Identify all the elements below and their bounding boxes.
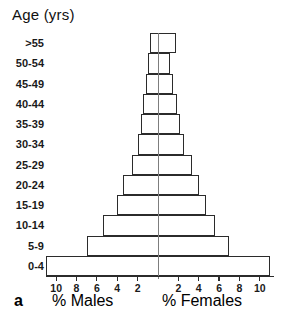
female-bar (158, 114, 180, 134)
age-group-label: 30-34 (16, 134, 44, 154)
bar-row (46, 215, 274, 235)
males-axis-caption: % Males (52, 292, 113, 310)
male-bar (146, 74, 158, 94)
age-group-label: >55 (25, 33, 44, 53)
y-axis-title: Age (yrs) (12, 6, 75, 23)
center-axis-line (158, 33, 159, 279)
male-bar (143, 94, 158, 114)
female-bar (158, 175, 199, 195)
panel-letter: a (14, 292, 23, 310)
bar-row (46, 134, 274, 154)
age-group-label-column: >5550-5445-4940-4435-3930-3425-2920-2415… (0, 33, 46, 276)
bar-row (46, 236, 274, 256)
bar-row (46, 155, 274, 175)
x-axis-tick (117, 276, 118, 281)
age-group-label: 5-9 (28, 236, 44, 256)
age-group-label: 0-4 (28, 256, 44, 276)
age-group-label: 40-44 (16, 94, 44, 114)
male-bar (138, 134, 158, 154)
x-axis-tick (137, 276, 138, 281)
male-bar (132, 155, 158, 175)
female-bar (158, 53, 170, 73)
bar-row (46, 94, 274, 114)
bar-row (46, 195, 274, 215)
male-bar (46, 256, 158, 276)
age-group-label: 50-54 (16, 53, 44, 73)
male-bar (150, 33, 158, 53)
male-bar (141, 114, 158, 134)
female-bar (158, 74, 173, 94)
axis-cap-right (269, 271, 270, 277)
male-bar (148, 53, 158, 73)
age-group-label: 20-24 (16, 175, 44, 195)
x-axis-tick (259, 276, 260, 281)
age-group-label: 25-29 (16, 155, 44, 175)
figure-footer: a % Males % Females (0, 292, 288, 318)
x-axis-tick (76, 276, 77, 281)
bar-row (46, 114, 274, 134)
age-group-label: 45-49 (16, 74, 44, 94)
bar-row (46, 175, 274, 195)
female-bar (158, 94, 177, 114)
x-axis-tick (56, 276, 57, 281)
females-axis-caption: % Females (162, 292, 242, 310)
age-group-label: 15-19 (16, 195, 44, 215)
age-group-label: 35-39 (16, 114, 44, 134)
x-axis-tick (239, 276, 240, 281)
female-bar (158, 33, 176, 53)
female-bar (158, 155, 192, 175)
axis-cap-left (46, 271, 47, 277)
age-group-label: 10-14 (16, 215, 44, 235)
population-pyramid-figure: Age (yrs) >5550-5445-4940-4435-3930-3425… (0, 0, 288, 330)
female-bar (158, 195, 206, 215)
bar-row (46, 53, 274, 73)
x-axis-tick (96, 276, 97, 281)
male-bar (87, 236, 158, 256)
plot-area: 108642246810 (46, 30, 274, 278)
male-bar (117, 195, 158, 215)
bar-row (46, 33, 274, 53)
female-bar (158, 134, 184, 154)
bar-row (46, 256, 274, 276)
female-bar (158, 215, 215, 235)
bar-group (46, 33, 274, 276)
male-bar (123, 175, 158, 195)
female-bar (158, 256, 270, 276)
female-bar (158, 236, 229, 256)
male-bar (103, 215, 158, 235)
x-axis-tick (218, 276, 219, 281)
x-axis-tick (178, 276, 179, 281)
bar-row (46, 74, 274, 94)
x-axis-tick (198, 276, 199, 281)
